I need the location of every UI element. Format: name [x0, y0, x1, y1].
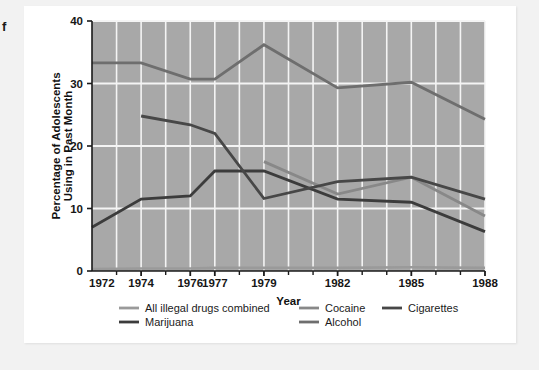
x-tick-label: 1976	[177, 277, 203, 289]
y-tick-label: 30	[70, 78, 83, 90]
legend-label: Cocaine	[325, 302, 365, 314]
x-tick-label: 1985	[399, 277, 425, 289]
x-tick-label: 1972	[89, 277, 115, 289]
legend-label: Marijuana	[145, 316, 194, 328]
line-chart: 0102030401972197419761977197919821985198…	[24, 6, 516, 343]
x-tick-label: 1977	[202, 277, 228, 289]
x-tick-label: 1982	[325, 277, 351, 289]
legend-label: All illegal drugs combined	[145, 302, 270, 314]
y-tick-label: 40	[70, 15, 83, 27]
x-tick-label: 1979	[251, 277, 277, 289]
y-tick-label: 0	[77, 265, 83, 277]
legend-label: Cigarettes	[408, 302, 459, 314]
legend-label: Alcohol	[325, 316, 361, 328]
y-tick-label: 10	[70, 203, 83, 215]
y-axis-title-line-1: Percentage of Adolescents	[50, 72, 62, 219]
x-axis-title: Year	[276, 295, 301, 307]
x-tick-label: 1988	[472, 277, 498, 289]
y-axis-title-line-2: Using in Past Month	[62, 91, 74, 202]
x-tick-label: 1974	[128, 277, 154, 289]
chart-canvas: 0102030401972197419761977197919821985198…	[24, 6, 516, 343]
figure-card: 0102030401972197419761977197919821985198…	[24, 6, 516, 343]
page-edge-letter: f	[2, 20, 6, 33]
